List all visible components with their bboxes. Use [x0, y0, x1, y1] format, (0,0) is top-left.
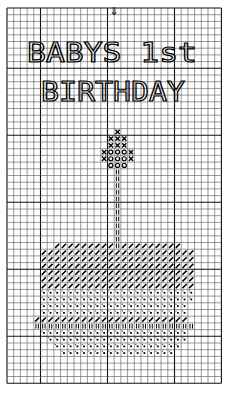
diagonal-stitch-icon [129, 264, 133, 268]
diagonal-stitch-icon [136, 318, 140, 322]
dot-stitch-icon [42, 304, 45, 307]
diagonal-stitch-icon [156, 277, 160, 281]
diagonal-stitch-icon [42, 318, 46, 322]
dot-stitch-icon [115, 337, 118, 340]
bar-stitch-icon [49, 324, 51, 329]
bar-stitch-icon [76, 324, 78, 329]
dot-stitch-icon [169, 290, 172, 293]
bar-stitch-icon [163, 324, 165, 329]
dot-stitch-icon [115, 351, 118, 354]
dot-stitch-icon [169, 331, 172, 334]
dot-stitch-icon [68, 331, 71, 334]
diagonal-stitch-icon [169, 271, 173, 275]
diagonal-stitch-icon [156, 264, 160, 268]
dot-stitch-icon [149, 351, 152, 354]
dot-stitch-icon [149, 311, 152, 314]
dot-stitch-icon [95, 344, 98, 347]
diagonal-stitch-icon [82, 318, 86, 322]
diagonal-stitch-icon [102, 277, 106, 281]
diagonal-stitch-icon [109, 277, 113, 281]
dot-stitch-icon [115, 331, 118, 334]
diagonal-stitch-icon [69, 244, 73, 248]
cross-stitch-icon [122, 143, 126, 147]
dot-stitch-icon [68, 337, 71, 340]
diagonal-stitch-icon [129, 244, 133, 248]
diagonal-stitch-icon [69, 251, 73, 255]
diagonal-stitch-icon [95, 277, 99, 281]
diagonal-stitch-icon [156, 318, 160, 322]
diagonal-stitch-icon [169, 277, 173, 281]
diagonal-stitch-icon [62, 284, 66, 288]
cross-stitch-icon [129, 150, 133, 154]
dot-stitch-icon [176, 331, 179, 334]
dot-stitch-icon [88, 337, 91, 340]
circle-stitch-icon [116, 150, 120, 154]
diagonal-stitch-icon [122, 257, 126, 261]
bar-stitch-icon [170, 324, 172, 329]
dot-stitch-icon [82, 297, 85, 300]
dot-stitch-icon [149, 337, 152, 340]
dot-stitch-icon [82, 304, 85, 307]
diagonal-stitch-icon [116, 251, 120, 255]
dot-stitch-icon [82, 337, 85, 340]
bar-stitch-icon [110, 324, 112, 329]
diagonal-stitch-icon [142, 251, 146, 255]
title-line-2: BIRTHDAY [41, 76, 185, 107]
dot-stitch-icon [82, 351, 85, 354]
diagonal-stitch-icon [42, 284, 46, 288]
diagonal-stitch-icon [95, 257, 99, 261]
diagonal-stitch-icon [142, 257, 146, 261]
bar-stitch-icon [130, 324, 132, 329]
dot-stitch-icon [109, 344, 112, 347]
diagonal-stitch-icon [169, 257, 173, 261]
dot-stitch-icon [149, 297, 152, 300]
dot-stitch-icon [129, 311, 132, 314]
dot-stitch-icon [55, 337, 58, 340]
cross-stitch-icon [129, 157, 133, 161]
diagonal-stitch-icon [42, 257, 46, 261]
dot-stitch-icon [162, 304, 165, 307]
diagonal-stitch-icon [102, 257, 106, 261]
diagonal-stitch-icon [176, 271, 180, 275]
dot-stitch-icon [68, 311, 71, 314]
dot-stitch-icon [169, 297, 172, 300]
dot-stitch-icon [55, 290, 58, 293]
diagonal-stitch-icon [129, 271, 133, 275]
bar-stitch-icon [157, 324, 159, 329]
diagonal-stitch-icon [189, 257, 193, 261]
diagonal-stitch-icon [169, 251, 173, 255]
dot-stitch-icon [82, 290, 85, 293]
diagonal-stitch-icon [69, 264, 73, 268]
bar-stitch-icon [43, 324, 45, 329]
diagonal-stitch-icon [75, 257, 79, 261]
dot-stitch-icon [142, 344, 145, 347]
diagonal-stitch-icon [116, 257, 120, 261]
dot-stitch-icon [162, 311, 165, 314]
bar-stitch-icon [150, 324, 152, 329]
dot-stitch-icon [155, 304, 158, 307]
diagonal-stitch-icon [129, 257, 133, 261]
dot-stitch-icon [149, 290, 152, 293]
dot-stitch-icon [95, 311, 98, 314]
dot-stitch-icon [109, 337, 112, 340]
diagonal-stitch-icon [136, 284, 140, 288]
diagonal-stitch-icon [89, 251, 93, 255]
diagonal-stitch-icon [55, 257, 59, 261]
dot-stitch-icon [95, 351, 98, 354]
title-line-1: BABYS 1st [27, 37, 197, 68]
diagonal-stitch-icon [169, 284, 173, 288]
dot-stitch-icon [68, 297, 71, 300]
dot-stitch-icon [162, 337, 165, 340]
diagonal-stitch-icon [102, 251, 106, 255]
bar-stitch-icon [116, 197, 118, 202]
diagonal-stitch-icon [49, 257, 53, 261]
diagonal-stitch-icon [169, 244, 173, 248]
diagonal-stitch-icon [102, 271, 106, 275]
dot-stitch-icon [62, 344, 65, 347]
diagonal-stitch-icon [49, 277, 53, 281]
dot-stitch-icon [109, 351, 112, 354]
cross-stitch-chart: ⇓ BABYS 1st BIRTHDAY [0, 0, 226, 396]
cross-stitch-icon [109, 137, 113, 141]
dot-stitch-icon [176, 290, 179, 293]
diagonal-stitch-icon [136, 257, 140, 261]
